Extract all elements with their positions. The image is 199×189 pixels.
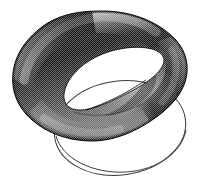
figure-container: Shaded twisted band (Mobius-like knotted… xyxy=(0,0,199,189)
twisted-band-illustration xyxy=(0,0,199,189)
